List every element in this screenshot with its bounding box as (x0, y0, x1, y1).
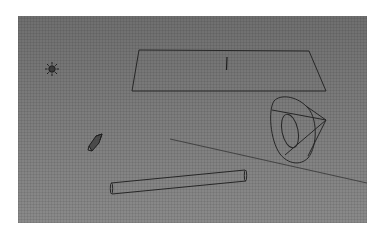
sun-lamp-icon[interactable] (45, 62, 59, 76)
spot-lamp-icon[interactable] (271, 97, 326, 163)
plane-mesh[interactable] (132, 50, 326, 91)
x-axis-line (170, 139, 367, 183)
3d-viewport[interactable] (18, 16, 367, 223)
viewport-canvas[interactable] (18, 16, 367, 223)
camera-icon[interactable] (88, 134, 102, 151)
cylinder-mesh[interactable] (110, 170, 246, 194)
plane-normal-indicator (227, 57, 228, 70)
